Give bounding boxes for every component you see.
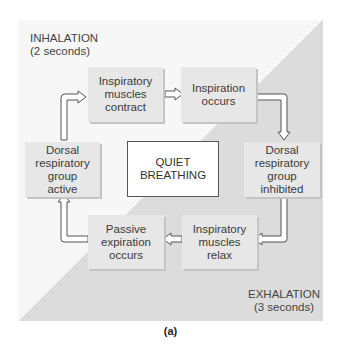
box-inspiration-occurs: Inspiration occurs xyxy=(181,67,256,122)
box-text: Dorsal respiratory group inhibited xyxy=(255,144,309,196)
box-drg-active: Dorsal respiratory group active xyxy=(25,142,100,197)
box-text: Inspiratory muscles contract xyxy=(99,75,153,114)
box-drg-inhibited: Dorsal respiratory group inhibited xyxy=(244,142,320,197)
figure-caption: (a) xyxy=(0,325,341,337)
box-text: Dorsal respiratory group active xyxy=(35,144,89,196)
center-text: QUIET BREATHING xyxy=(140,156,206,182)
quiet-breathing-box: QUIET BREATHING xyxy=(127,141,219,197)
box-inspiratory-muscles-relax: Inspiratory muscles relax xyxy=(182,215,257,269)
box-passive-expiration: Passive expiration occurs xyxy=(88,215,164,269)
box-text: Inspiration occurs xyxy=(192,82,245,108)
box-text: Passive expiration occurs xyxy=(101,223,151,262)
box-inspiratory-muscles-contract: Inspiratory muscles contract xyxy=(88,67,163,122)
box-text: Inspiratory muscles relax xyxy=(193,223,247,262)
